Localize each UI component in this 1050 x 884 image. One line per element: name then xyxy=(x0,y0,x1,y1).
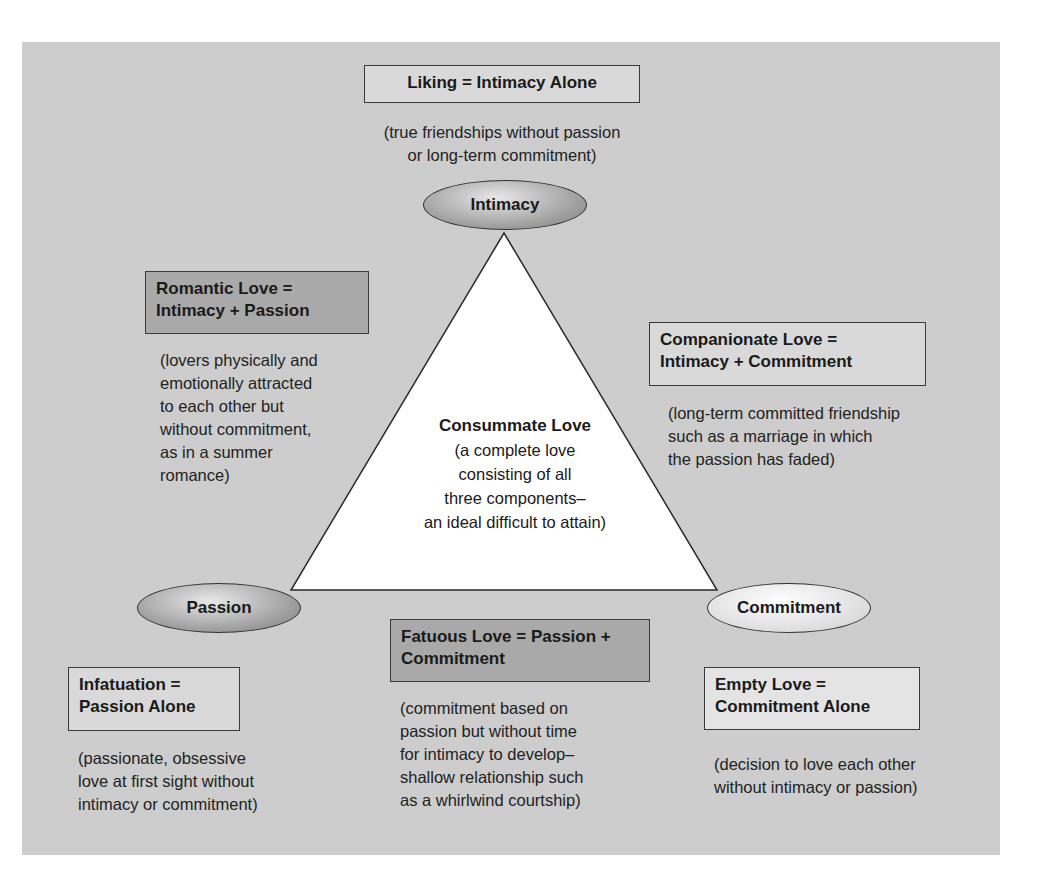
romantic-desc-line: (lovers physically and xyxy=(160,349,380,372)
consummate-line: (a complete love xyxy=(370,438,660,462)
companionate-desc-line: (long-term committed friendship xyxy=(668,402,968,425)
infatuation-desc-line: intimacy or commitment) xyxy=(78,793,358,816)
consummate-line: three components– xyxy=(370,486,660,510)
romantic-love-box: Romantic Love = Intimacy + Passion xyxy=(145,271,369,334)
liking-desc-line: or long-term commitment) xyxy=(352,144,652,167)
fatuous-love-box: Fatuous Love = Passion + Commitment xyxy=(390,619,650,682)
infatuation-box: Infatuation = Passion Alone xyxy=(68,667,240,731)
companionate-title-line: Companionate Love = xyxy=(660,329,915,351)
liking-desc-line: (true friendships without passion xyxy=(352,121,652,144)
companionate-desc-line: the passion has faded) xyxy=(668,448,968,471)
commitment-label: Commitment xyxy=(737,598,841,618)
companionate-desc-line: such as a marriage in which xyxy=(668,425,968,448)
fatuous-desc-line: as a whirlwind courtship) xyxy=(400,789,660,812)
empty-love-box: Empty Love = Commitment Alone xyxy=(704,667,920,730)
fatuous-desc-line: shallow relationship such xyxy=(400,766,660,789)
companionate-love-description: (long-term committed friendship such as … xyxy=(668,402,968,471)
romantic-desc-line: to each other but xyxy=(160,395,380,418)
romantic-title-line: Intimacy + Passion xyxy=(156,300,358,322)
fatuous-love-description: (commitment based on passion but without… xyxy=(400,697,660,812)
fatuous-desc-line: (commitment based on xyxy=(400,697,660,720)
liking-title: Liking = Intimacy Alone xyxy=(373,72,631,94)
infatuation-desc-line: love at first sight without xyxy=(78,770,358,793)
companionate-title-line: Intimacy + Commitment xyxy=(660,351,915,373)
intimacy-node: Intimacy xyxy=(423,180,587,230)
fatuous-title-line: Fatuous Love = Passion + xyxy=(401,626,639,648)
empty-title-line: Empty Love = xyxy=(715,674,909,696)
empty-desc-line: (decision to love each other xyxy=(714,753,1004,776)
romantic-desc-line: romance) xyxy=(160,464,380,487)
empty-title-line: Commitment Alone xyxy=(715,696,909,718)
fatuous-title-line: Commitment xyxy=(401,648,639,670)
empty-love-description: (decision to love each other without int… xyxy=(714,753,1004,799)
liking-box: Liking = Intimacy Alone xyxy=(364,65,640,103)
consummate-line: consisting of all xyxy=(370,462,660,486)
consummate-title: Consummate Love xyxy=(370,414,660,438)
infatuation-title-line: Passion Alone xyxy=(79,696,229,718)
fatuous-desc-line: passion but without time xyxy=(400,720,660,743)
intimacy-label: Intimacy xyxy=(471,195,540,215)
companionate-love-box: Companionate Love = Intimacy + Commitmen… xyxy=(649,322,926,386)
passion-node: Passion xyxy=(137,583,301,633)
liking-description: (true friendships without passion or lon… xyxy=(352,121,652,167)
romantic-love-description: (lovers physically and emotionally attra… xyxy=(160,349,380,487)
infatuation-title-line: Infatuation = xyxy=(79,674,229,696)
fatuous-desc-line: for intimacy to develop– xyxy=(400,743,660,766)
consummate-line: an ideal difficult to attain) xyxy=(370,510,660,534)
empty-desc-line: without intimacy or passion) xyxy=(714,776,1004,799)
consummate-love-text: Consummate Love (a complete love consist… xyxy=(370,414,660,534)
passion-label: Passion xyxy=(186,598,251,618)
romantic-title-line: Romantic Love = xyxy=(156,278,358,300)
infatuation-description: (passionate, obsessive love at first sig… xyxy=(78,747,358,816)
commitment-node: Commitment xyxy=(707,583,871,633)
infatuation-desc-line: (passionate, obsessive xyxy=(78,747,358,770)
romantic-desc-line: without commitment, xyxy=(160,418,380,441)
romantic-desc-line: emotionally attracted xyxy=(160,372,380,395)
romantic-desc-line: as in a summer xyxy=(160,441,380,464)
